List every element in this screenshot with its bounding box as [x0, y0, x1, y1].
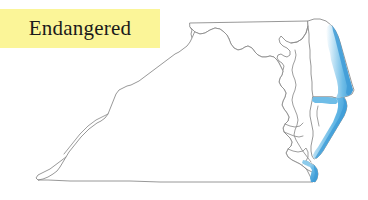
eastern-shore-blue-cap	[312, 97, 338, 104]
map-figure: Endangered	[0, 0, 368, 200]
bay-inner-channel	[292, 50, 311, 162]
james-york-rivers	[285, 123, 303, 127]
endangered-label: Endangered	[0, 9, 160, 48]
